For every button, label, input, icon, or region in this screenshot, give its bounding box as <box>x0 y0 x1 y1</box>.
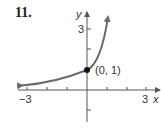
point-label: (0, 1) <box>95 64 121 76</box>
y-axis-label: y <box>75 8 83 20</box>
y-max-label: 3 <box>78 23 84 35</box>
x-axis-label: x <box>152 93 159 105</box>
graph: (0, 1) y 3 −3 3 x <box>0 0 165 129</box>
x-max-label: 3 <box>142 93 148 105</box>
point-0-1 <box>84 67 90 73</box>
x-min-label: −3 <box>19 93 32 105</box>
